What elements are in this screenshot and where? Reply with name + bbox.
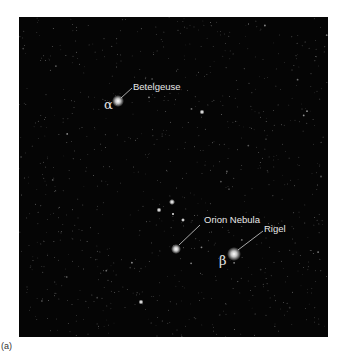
rigel-label: Rigel: [264, 223, 286, 234]
alpha-label: α: [104, 97, 113, 112]
star-field: [19, 17, 328, 337]
orion-nebula-star: [171, 244, 181, 254]
beta-label: β: [219, 253, 227, 268]
orion-nebula-label: Orion Nebula: [204, 214, 260, 225]
betelgeuse-label: Betelgeuse: [133, 81, 181, 92]
figure-caption: (a): [1, 341, 12, 351]
star-field-photo: Betelgeuse α Orion Nebula Rigel β: [19, 17, 328, 337]
